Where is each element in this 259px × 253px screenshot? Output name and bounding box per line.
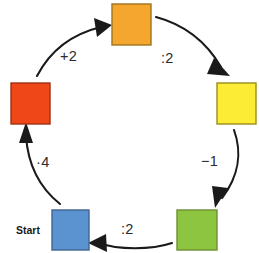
node-group xyxy=(11,4,256,250)
edge-label-green-to-blue: :2 xyxy=(121,221,134,237)
edge-label-orange-to-yellow: :2 xyxy=(161,50,174,66)
edge-label-yellow-to-green: −1 xyxy=(201,153,218,169)
arrow-path xyxy=(99,243,172,248)
arrow-head xyxy=(19,122,33,143)
diagram-canvas: :2 −1 :2 ·4 +2 Start xyxy=(0,0,259,253)
blue-square xyxy=(52,210,89,250)
arrow-head xyxy=(94,18,112,37)
arrow-yellow-to-green xyxy=(212,130,238,208)
edge-label-blue-to-red: ·4 xyxy=(36,154,50,170)
green-square xyxy=(177,210,217,250)
arrow-red-to-orange xyxy=(37,18,112,76)
cycle-diagram-svg xyxy=(0,0,259,253)
arrow-path xyxy=(26,136,60,204)
arrow-head xyxy=(207,58,230,76)
arrow-orange-to-yellow xyxy=(156,17,230,76)
red-square xyxy=(11,83,50,124)
start-label: Start xyxy=(16,224,40,236)
arrow-head xyxy=(212,186,228,208)
yellow-square xyxy=(217,83,256,124)
arrow-head xyxy=(88,234,107,252)
edge-label-red-to-orange: +2 xyxy=(60,48,77,64)
orange-square xyxy=(112,4,151,45)
